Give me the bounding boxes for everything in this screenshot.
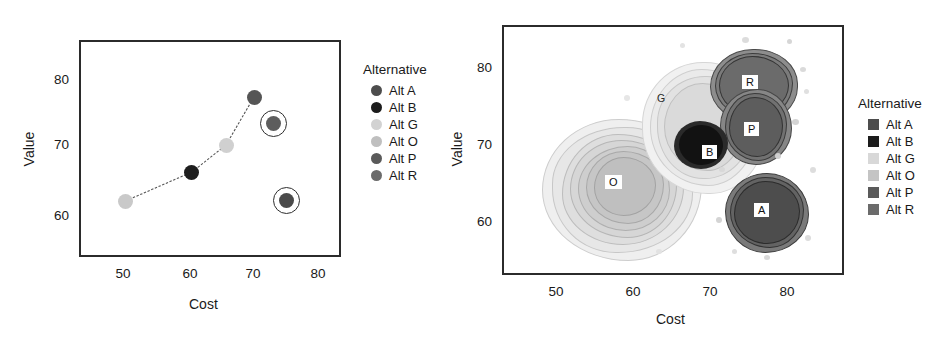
density-yaxis-title: Value — [449, 119, 465, 179]
density-legend: Alternative Alt A Alt B Alt G Alt O — [858, 96, 922, 218]
scatter-xtick-70: 70 — [235, 266, 271, 281]
density-speck — [810, 167, 816, 173]
legend-label-alt-r: Alt R — [886, 202, 914, 217]
legend-item-alt-g[interactable]: Alt G — [868, 150, 922, 167]
legend-label-alt-r: Alt R — [389, 168, 417, 183]
scatter-ytick-80: 80 — [45, 72, 69, 87]
legend-square-alt-p — [868, 187, 879, 198]
legend-label-alt-a: Alt A — [886, 117, 913, 132]
density-xaxis-title: Cost — [656, 311, 685, 327]
density-xtick-50: 50 — [538, 284, 574, 299]
scatter-legend-title: Alternative — [363, 62, 427, 77]
legend-item-alt-a[interactable]: Alt A — [868, 116, 922, 133]
legend-label-alt-g: Alt G — [389, 117, 418, 132]
legend-label-alt-g: Alt G — [886, 151, 915, 166]
scatter-xaxis-title: Cost — [189, 296, 218, 312]
density-ytick-80: 80 — [468, 60, 492, 75]
density-label-alt-o: O — [605, 175, 622, 189]
legend-label-alt-o: Alt O — [389, 134, 418, 149]
legend-item-alt-o[interactable]: Alt O — [868, 167, 922, 184]
density-xtick-70: 70 — [692, 284, 728, 299]
density-speck — [680, 43, 685, 48]
legend-square-alt-o — [868, 170, 879, 181]
legend-square-alt-r — [868, 204, 879, 215]
density-label-alt-a: A — [754, 203, 769, 217]
legend-label-alt-p: Alt P — [886, 185, 913, 200]
legend-dot-alt-o — [371, 136, 382, 147]
scatter-xtick-50: 50 — [105, 266, 141, 281]
scatter-ytick-60: 60 — [45, 208, 69, 223]
density-ytick-60: 60 — [468, 214, 492, 229]
legend-item-alt-o[interactable]: Alt O — [371, 133, 427, 150]
legend-item-alt-r[interactable]: Alt R — [371, 167, 427, 184]
legend-square-alt-b — [868, 136, 879, 147]
legend-square-alt-g — [868, 153, 879, 164]
density-speck — [742, 37, 749, 43]
density-legend-title: Alternative — [858, 96, 922, 111]
scatter-point-alt-a[interactable] — [279, 193, 294, 208]
density-speck — [719, 167, 725, 172]
legend-item-alt-b[interactable]: Alt B — [868, 133, 922, 150]
legend-label-alt-a: Alt A — [389, 83, 416, 98]
density-speck — [792, 119, 799, 125]
legend-dot-alt-r — [371, 170, 382, 181]
density-label-alt-b: B — [702, 145, 717, 159]
legend-dot-alt-a — [371, 85, 382, 96]
legend-square-alt-a — [868, 119, 879, 130]
scatter-point-alt-g[interactable] — [219, 138, 234, 153]
density-speck — [804, 89, 809, 94]
scatter-ytick-70: 70 — [45, 137, 69, 152]
legend-item-alt-a[interactable]: Alt A — [371, 82, 427, 99]
density-label-alt-g: G — [657, 93, 665, 104]
scatter-xtick-80: 80 — [300, 266, 336, 281]
legend-label-alt-o: Alt O — [886, 168, 915, 183]
density-label-alt-p: P — [744, 122, 759, 136]
scatter-plot-area — [79, 40, 341, 257]
scatter-legend: Alternative Alt A Alt B Alt G Alt O — [363, 62, 427, 184]
density-label-alt-r: R — [742, 75, 758, 89]
density-speck — [805, 235, 811, 241]
legend-label-alt-p: Alt P — [389, 151, 416, 166]
density-speck — [732, 249, 737, 254]
density-speck — [624, 95, 630, 101]
density-speck — [787, 39, 792, 44]
scatter-point-alt-r[interactable] — [247, 90, 262, 105]
legend-label-alt-b: Alt B — [886, 134, 913, 149]
legend-item-alt-p[interactable]: Alt P — [371, 150, 427, 167]
legend-item-alt-b[interactable]: Alt B — [371, 99, 427, 116]
legend-dot-alt-g — [371, 119, 382, 130]
density-speck — [764, 255, 770, 260]
density-xtick-80: 80 — [769, 284, 805, 299]
density-ytick-70: 70 — [468, 137, 492, 152]
legend-item-alt-g[interactable]: Alt G — [371, 116, 427, 133]
scatter-xtick-60: 60 — [172, 266, 208, 281]
legend-dot-alt-b — [371, 102, 382, 113]
density-speck — [800, 67, 806, 72]
density-speck — [656, 249, 662, 254]
scatter-panel: 80 70 60 50 60 70 80 Cost Value Alternat… — [0, 0, 470, 345]
density-speck — [716, 217, 722, 223]
density-speck — [775, 153, 781, 159]
density-contours: R P B G O A — [504, 27, 842, 273]
density-xtick-60: 60 — [615, 284, 651, 299]
legend-label-alt-b: Alt B — [389, 100, 416, 115]
density-plot-area: R P B G O A — [502, 25, 844, 275]
connector-line — [81, 42, 343, 259]
legend-item-alt-r[interactable]: Alt R — [868, 201, 922, 218]
scatter-point-alt-p[interactable] — [266, 116, 281, 131]
figure-root: 80 70 60 50 60 70 80 Cost Value Alternat… — [0, 0, 947, 345]
scatter-yaxis-title: Value — [21, 119, 37, 179]
scatter-point-alt-o[interactable] — [118, 194, 133, 209]
density-panel: R P B G O A 80 70 60 50 60 70 80 Cost Va… — [460, 0, 947, 345]
scatter-point-alt-b[interactable] — [184, 165, 199, 180]
legend-item-alt-p[interactable]: Alt P — [868, 184, 922, 201]
legend-dot-alt-p — [371, 153, 382, 164]
